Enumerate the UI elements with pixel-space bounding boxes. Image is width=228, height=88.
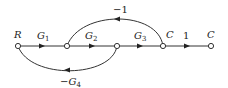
label-c-mid: C [166,29,174,40]
node-c-output [208,43,213,48]
arrow-right-icon [89,44,95,49]
gain-g3: G3 [134,30,146,43]
arrow-right-icon [184,44,190,49]
node-3 [114,43,119,48]
label-c-out: C [207,29,215,40]
node-2 [64,43,69,48]
gain-feedback-bottom: −G4 [60,76,81,88]
branch-feedback-bottom [18,46,117,71]
gain-unity: 1 [183,30,189,41]
branch-feedback-top [67,19,163,46]
gain-feedback-top: −1 [113,4,128,15]
arrow-right-icon [137,44,143,49]
arrow-left-icon [64,68,70,73]
node-c [160,43,165,48]
node-r [15,43,20,48]
arrow-left-icon [114,17,120,22]
arrow-right-icon [39,44,45,49]
label-r: R [13,29,22,40]
signal-flow-graph: R C C G1 G2 G3 1 −1 −G4 [0,0,228,88]
gain-g2: G2 [85,30,97,43]
gain-g1: G1 [37,30,49,43]
